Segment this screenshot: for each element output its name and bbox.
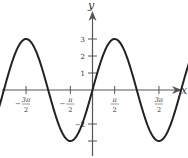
y-tick-label: 1 <box>81 70 85 78</box>
minus-sign: − <box>15 100 21 108</box>
x-tick-label: 3π <box>155 96 164 104</box>
x-tick-label: 2 <box>157 106 161 114</box>
y-tick-label: 2 <box>81 53 85 61</box>
x-tick-label: 2 <box>68 106 72 114</box>
sine-graph: x y 7π2−5π2−3π2−π2−π23π25π2 321−2 <box>0 0 188 158</box>
x-tick-label: π <box>67 96 73 104</box>
x-tick-label: 3π <box>22 96 31 104</box>
y-axis-label: y <box>87 0 95 12</box>
x-tick-label: 2 <box>113 106 117 114</box>
y-tick-label: 3 <box>81 36 85 44</box>
x-tick-label: π <box>112 96 118 104</box>
minus-sign: − <box>59 100 65 108</box>
x-tick-label: 2 <box>24 106 28 114</box>
